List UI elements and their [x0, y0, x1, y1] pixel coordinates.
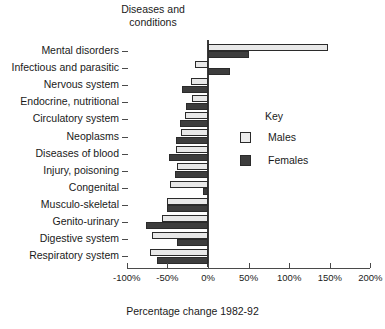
category-label: Congenital — [0, 182, 119, 193]
y-axis-tick — [122, 239, 128, 240]
bar-males — [192, 95, 208, 102]
bar-females — [208, 68, 230, 75]
y-axis-tick — [122, 256, 128, 257]
category-label: Musculo-skeletal — [0, 199, 119, 210]
bar-males — [167, 198, 208, 205]
category-label-text: Nervous system — [0, 79, 119, 90]
bar-males — [152, 232, 208, 239]
x-axis-label: Percentage change 1982-92 — [0, 305, 385, 317]
category-label: Circulatory system — [0, 113, 119, 124]
category-label-text: Neoplasms — [0, 131, 119, 142]
category-label: Genito-urinary — [0, 216, 119, 227]
category-label: Respiratory system — [0, 250, 119, 261]
category-label-text: Infectious and parasitic — [0, 62, 119, 73]
category-label-text: Injury, poisoning — [0, 165, 119, 176]
y-axis-tick — [122, 85, 128, 86]
bar-females — [182, 86, 208, 93]
x-axis-tick — [289, 263, 290, 268]
bar-males — [176, 146, 208, 153]
bar-males — [191, 78, 208, 85]
bar-males — [170, 181, 208, 188]
bar-males — [185, 112, 208, 119]
x-axis-tick-label: 0% — [201, 272, 215, 283]
bar-males — [162, 215, 208, 222]
category-label: Neoplasms — [0, 131, 119, 142]
category-label: Diseases of blood — [0, 148, 119, 159]
category-label-text: Mental disorders — [0, 45, 119, 56]
category-label-text: Musculo-skeletal — [0, 199, 119, 210]
bar-males — [195, 61, 208, 68]
category-label: Infectious and parasitic — [0, 62, 119, 73]
category-label-text: Circulatory system — [0, 113, 119, 124]
legend-title: Key — [232, 110, 316, 122]
x-axis-tick — [370, 263, 371, 268]
x-axis-tick-label: -100% — [113, 272, 140, 283]
category-label: Mental disorders — [0, 45, 119, 56]
bar-females — [180, 120, 208, 127]
x-axis-tick — [208, 263, 209, 268]
y-axis-tick — [122, 51, 128, 52]
bar-females — [167, 205, 208, 212]
y-axis-tick — [122, 119, 128, 120]
bar-females — [157, 257, 208, 264]
legend-label-females: Females — [268, 154, 308, 166]
category-label: Digestive system — [0, 233, 119, 244]
bar-females — [175, 171, 208, 178]
y-axis-tick — [122, 171, 128, 172]
chart-legend: Key Males Females — [228, 110, 338, 177]
y-axis-tick — [122, 188, 128, 189]
category-label-text: Diseases of blood — [0, 148, 119, 159]
x-axis-tick — [330, 263, 331, 268]
legend-item-females: Females — [228, 154, 338, 166]
legend-item-males: Males — [228, 131, 338, 143]
bar-females — [208, 51, 249, 58]
bar-females — [203, 188, 208, 195]
x-axis-tick-label: 150% — [318, 272, 342, 283]
y-axis-tick — [122, 137, 128, 138]
x-axis-tick — [249, 263, 250, 268]
bar-females — [177, 239, 208, 246]
category-label: Nervous system — [0, 79, 119, 90]
chart-category-axis-title: Diseases and conditions — [88, 3, 218, 29]
x-axis-tick-label: 200% — [358, 272, 382, 283]
y-axis-tick — [122, 154, 128, 155]
x-axis-tick — [167, 263, 168, 268]
bar-females — [176, 137, 208, 144]
y-axis-tick — [122, 222, 128, 223]
bar-females — [146, 222, 208, 229]
category-label-text: Respiratory system — [0, 250, 119, 261]
category-label-text: Digestive system — [0, 233, 119, 244]
bar-males — [181, 129, 208, 136]
x-axis-line — [127, 268, 371, 269]
category-label-text: Genito-urinary — [0, 216, 119, 227]
x-axis-tick — [127, 263, 128, 268]
legend-label-males: Males — [268, 131, 296, 143]
bar-males — [208, 44, 328, 51]
x-axis-tick-label: 100% — [277, 272, 301, 283]
chart-figure: Diseases and conditions Mental disorders… — [0, 0, 385, 329]
x-axis-tick-label: -50% — [156, 272, 178, 283]
y-axis-tick — [122, 205, 128, 206]
bar-females — [169, 154, 208, 161]
x-axis-tick-label: 50% — [239, 272, 258, 283]
category-label: Injury, poisoning — [0, 165, 119, 176]
y-axis-tick — [122, 68, 128, 69]
category-label-text: Congenital — [0, 182, 119, 193]
y-axis-tick — [122, 102, 128, 103]
category-label-text: Endocrine, nutritional — [0, 96, 119, 107]
legend-swatch-males-icon — [240, 132, 251, 143]
bar-males — [150, 249, 208, 256]
legend-swatch-females-icon — [240, 155, 251, 166]
bar-females — [186, 103, 208, 110]
category-label: Endocrine, nutritional — [0, 96, 119, 107]
bar-males — [177, 163, 208, 170]
